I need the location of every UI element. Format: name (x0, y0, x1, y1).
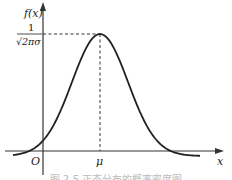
peak-label-denominator: √2πσ (16, 36, 41, 47)
density-curve (13, 34, 200, 156)
normal-distribution-chart: f(x) 1 √2πσ O μ x 图 2-5 正态分布的概率密度图 (0, 0, 232, 180)
x-axis-arrow-icon (215, 148, 224, 154)
origin-label: O (31, 155, 40, 168)
y-axis-label: f(x) (23, 7, 43, 20)
peak-label-numerator: 1 (28, 22, 34, 33)
figure-caption: 图 2-5 正态分布的概率密度图 (50, 173, 183, 180)
mu-tick-label: μ (96, 155, 103, 168)
x-axis-label: x (217, 155, 224, 168)
